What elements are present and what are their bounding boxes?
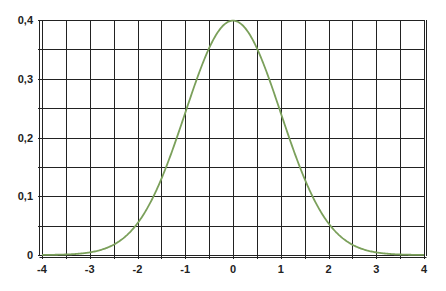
y-tick-label: 0 xyxy=(27,249,33,261)
x-tick-label: -2 xyxy=(133,263,143,275)
x-tick-label: 3 xyxy=(373,263,379,275)
normal-distribution-chart: -4-3-2-101234 00,10,20,30,4 xyxy=(0,0,446,291)
y-tick-label: 0,3 xyxy=(18,73,33,85)
x-axis-tick-labels: -4-3-2-101234 xyxy=(37,263,428,275)
y-tick-label: 0,1 xyxy=(18,190,33,202)
y-tick-label: 0,4 xyxy=(18,14,34,26)
x-tick-label: -4 xyxy=(37,263,48,275)
x-tick-label: 2 xyxy=(325,263,331,275)
y-tick-label: 0,2 xyxy=(18,132,33,144)
x-tick-label: 1 xyxy=(278,263,284,275)
x-tick-label: -3 xyxy=(85,263,95,275)
x-tick-label: 4 xyxy=(421,263,428,275)
x-tick-label: -1 xyxy=(180,263,190,275)
x-tick-label: 0 xyxy=(230,263,236,275)
y-axis-tick-labels: 00,10,20,30,4 xyxy=(18,14,34,261)
grid-lines xyxy=(38,20,425,259)
